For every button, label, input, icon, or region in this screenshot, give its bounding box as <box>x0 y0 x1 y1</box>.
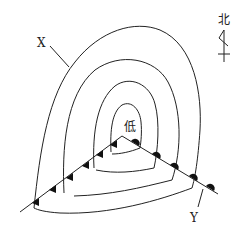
isobar-1 <box>34 26 200 213</box>
leader-y <box>198 189 203 207</box>
isobar-2 <box>64 60 180 196</box>
low-label: 低 <box>124 120 136 134</box>
weather-map: X Y 低 北 <box>0 0 245 234</box>
cold-front <box>20 136 122 212</box>
label-x: X <box>37 36 46 50</box>
label-y: Y <box>189 211 199 225</box>
north-arrow-icon <box>218 30 230 62</box>
leader-x <box>50 46 69 67</box>
warm-front <box>122 136 218 194</box>
north-label: 北 <box>218 13 230 27</box>
isobars <box>34 26 200 213</box>
